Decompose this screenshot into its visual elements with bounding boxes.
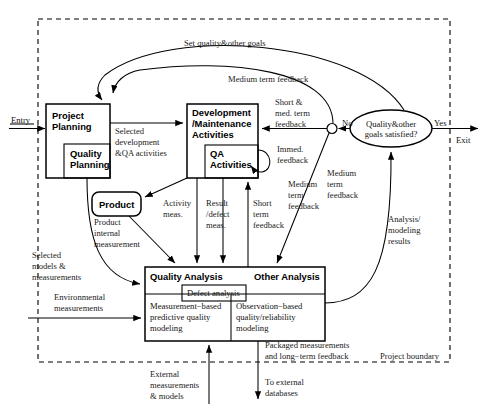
selected-development-line2: development xyxy=(115,137,160,147)
analysis-modeling-results-line1: Analysis/ xyxy=(388,214,421,224)
short-term-feedback-line3: feedback xyxy=(253,220,285,230)
packaged-measurements-line1: Packaged measurements xyxy=(265,340,350,350)
analysis-modeling-results-line3: results xyxy=(388,236,411,246)
selected-development-line1: Selected xyxy=(115,126,145,136)
medium-term-feedback-top-label: Medium term feedback xyxy=(228,74,309,84)
external-measurements-line2: measurements xyxy=(150,380,200,390)
activity-measurement-line1: Activity xyxy=(163,198,192,208)
development-label-line3: Activities xyxy=(192,129,234,140)
selected-development-line3: &QA activities xyxy=(115,148,167,158)
result-defect-line1: Result xyxy=(206,198,229,208)
product-internal-line1: Product xyxy=(94,217,121,227)
packaged-measurements-line2: and long−term feedback xyxy=(265,351,349,361)
observation-based-line1: Observation−based xyxy=(236,301,303,311)
environmental-measurements-line1: Environmental xyxy=(54,292,106,302)
selected-models-line2: models & xyxy=(32,261,66,271)
result-defect-line3: meas. xyxy=(206,220,226,230)
to-external-databases-line1: To external xyxy=(265,377,304,387)
observation-based-line3: modeling xyxy=(236,323,269,333)
result-defect-line2: /defect xyxy=(206,209,230,219)
short-med-term-line3: feedback xyxy=(275,119,307,129)
quality-planning-label-line2: Planning xyxy=(70,159,110,170)
yes-branch-label: Yes xyxy=(434,118,447,128)
project-planning-label-line2: Planning xyxy=(52,121,92,132)
selected-models-line1: Selected xyxy=(32,250,62,260)
medium-term-feedback-right-line2: term xyxy=(327,179,343,189)
immediate-feedback-edge xyxy=(251,150,270,172)
decision-label-line1: Quality&other xyxy=(366,119,416,129)
development-to-product-edge xyxy=(145,178,187,197)
external-measurements-line3: & models xyxy=(150,391,184,401)
quality-analysis-label: Quality Analysis xyxy=(150,271,223,282)
short-med-term-line1: Short & xyxy=(275,97,303,107)
no-branch-label: No xyxy=(342,118,353,128)
entry-label: Entry xyxy=(11,115,31,125)
measurement-based-line3: modeling xyxy=(150,323,183,333)
decision-label-line2: goals satisfied? xyxy=(365,129,418,139)
short-med-term-line2: med. term xyxy=(275,108,310,118)
external-measurements-line1: External xyxy=(150,369,180,379)
medium-term-feedback-mid-line1: Medium xyxy=(288,179,317,189)
qa-activities-label-line2: Activities xyxy=(210,159,252,170)
set-goals-label: Set quality&other goals xyxy=(184,38,266,48)
defect-analysis-label: Defect analysis xyxy=(187,288,240,298)
measurement-based-line1: Measurement−based xyxy=(150,301,222,311)
exit-label: Exit xyxy=(456,135,471,145)
observation-based-line2: quality/reliability xyxy=(236,312,296,322)
project-boundary-label: Project boundary xyxy=(380,351,440,361)
environmental-measurements-line2: measurements xyxy=(54,303,104,313)
immediate-feedback-line2: feedback xyxy=(277,155,309,165)
diagram-canvas: Entry Project Planning Quality Planning … xyxy=(0,0,484,414)
process-diagram: Entry Project Planning Quality Planning … xyxy=(0,0,484,414)
development-label-line1: Development xyxy=(192,107,251,118)
development-label-line2: /Maintenance xyxy=(192,118,251,129)
analysis-modeling-results-line2: modeling xyxy=(388,225,421,235)
medium-term-feedback-right-line1: Medium xyxy=(327,168,356,178)
other-analysis-label: Other Analysis xyxy=(254,271,320,282)
medium-term-feedback-right-line3: feedback xyxy=(327,190,359,200)
activity-measurement-line2: meas. xyxy=(163,209,183,219)
medium-term-feedback-mid-line2: term xyxy=(288,190,304,200)
medium-term-feedback-mid-line3: feedback xyxy=(288,201,320,211)
short-term-feedback-line1: Short xyxy=(253,198,272,208)
qa-activities-label-line1: QA xyxy=(210,148,224,159)
feedback-junction-node xyxy=(327,124,337,134)
immediate-feedback-line1: Immed. xyxy=(277,144,304,154)
selected-models-line3: measurements xyxy=(32,272,82,282)
product-internal-line3: measurement xyxy=(94,239,140,249)
short-term-feedback-line2: term xyxy=(253,209,269,219)
quality-planning-label-line1: Quality xyxy=(70,148,103,159)
to-external-databases-line2: databases xyxy=(265,388,299,398)
project-planning-label-line1: Project xyxy=(52,110,84,121)
product-internal-line2: internal xyxy=(94,228,121,238)
measurement-based-line2: predictive quality xyxy=(150,312,211,322)
product-label: Product xyxy=(99,199,134,210)
